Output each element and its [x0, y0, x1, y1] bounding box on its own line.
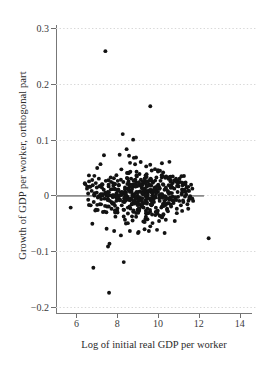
data-point	[134, 215, 138, 219]
data-point	[190, 187, 194, 191]
data-point	[86, 198, 90, 202]
data-point	[128, 161, 132, 165]
data-point	[99, 162, 103, 166]
data-point	[152, 194, 156, 198]
data-point	[131, 209, 135, 213]
x-tick-label: 6	[65, 318, 87, 329]
data-point	[145, 184, 149, 188]
data-point	[125, 176, 129, 180]
data-point	[131, 138, 135, 142]
data-point	[148, 224, 152, 228]
data-point	[144, 215, 148, 219]
data-point	[162, 204, 166, 208]
data-point	[111, 187, 115, 191]
data-point	[153, 179, 157, 183]
data-point	[128, 229, 132, 233]
data-point	[161, 212, 165, 216]
data-point	[106, 198, 110, 202]
data-point	[140, 203, 144, 207]
data-point	[138, 189, 142, 193]
data-point	[179, 203, 183, 207]
data-point	[116, 179, 120, 183]
data-point	[104, 210, 108, 214]
data-point	[175, 211, 179, 215]
data-point	[135, 190, 139, 194]
y-tick-label: 0.2	[15, 79, 49, 90]
data-point	[141, 180, 145, 184]
data-point	[150, 169, 154, 173]
data-point	[148, 104, 152, 108]
scatter-svg	[56, 20, 256, 315]
data-point	[95, 203, 99, 207]
data-point	[186, 207, 190, 211]
data-point	[113, 211, 117, 215]
data-point	[87, 173, 91, 177]
data-point	[138, 207, 142, 211]
data-point	[112, 229, 116, 233]
data-point	[180, 209, 184, 213]
data-point	[97, 184, 101, 188]
data-point	[122, 215, 126, 219]
data-point	[149, 178, 153, 182]
data-point	[167, 160, 171, 164]
data-point	[114, 173, 118, 177]
data-point	[124, 222, 128, 226]
data-point	[128, 170, 132, 174]
data-point	[99, 202, 103, 206]
data-point	[103, 204, 107, 208]
y-axis-title: Growth of GDP per worker, orthogonal par…	[17, 26, 28, 306]
data-point	[148, 188, 152, 192]
data-point	[90, 222, 94, 226]
plot-area	[56, 20, 256, 315]
data-point	[173, 219, 177, 223]
data-point	[144, 174, 148, 178]
x-axis-title: Log of initial real GDP per worker	[56, 339, 252, 350]
data-point	[174, 198, 178, 202]
data-point	[119, 167, 123, 171]
data-point	[131, 195, 135, 199]
data-point	[85, 185, 89, 189]
data-point	[107, 183, 111, 187]
data-point	[126, 198, 130, 202]
data-point	[124, 192, 128, 196]
data-point	[83, 181, 87, 185]
data-point	[127, 179, 131, 183]
data-point	[149, 197, 153, 201]
data-point	[118, 198, 122, 202]
data-point	[183, 182, 187, 186]
data-point	[134, 185, 138, 189]
data-point	[168, 191, 172, 195]
x-tick-label: 10	[147, 318, 169, 329]
data-point	[122, 260, 126, 264]
data-point	[115, 207, 119, 211]
data-point	[95, 166, 99, 170]
data-point	[132, 156, 136, 160]
data-point	[97, 177, 101, 181]
data-point	[131, 219, 135, 223]
data-point	[184, 192, 188, 196]
data-point	[144, 164, 148, 168]
data-point	[187, 199, 191, 203]
data-point	[169, 185, 173, 189]
data-point	[118, 153, 122, 157]
data-point	[147, 229, 151, 233]
data-point	[158, 194, 162, 198]
y-tick-label: −0.1	[15, 245, 49, 256]
data-point	[99, 197, 103, 201]
data-point	[139, 160, 143, 164]
data-point	[107, 205, 111, 209]
data-point	[152, 189, 156, 193]
data-point	[164, 218, 168, 222]
data-point	[106, 178, 110, 182]
scatter-plot-figure: Growth of GDP per worker, orthogonal par…	[0, 0, 267, 366]
data-point	[134, 174, 138, 178]
data-point	[155, 228, 159, 232]
data-point	[185, 202, 189, 206]
data-point	[174, 179, 178, 183]
data-point	[107, 291, 111, 295]
data-point	[102, 153, 106, 157]
data-point	[132, 178, 136, 182]
data-point	[130, 214, 134, 218]
data-point	[161, 174, 165, 178]
data-point	[93, 209, 97, 213]
